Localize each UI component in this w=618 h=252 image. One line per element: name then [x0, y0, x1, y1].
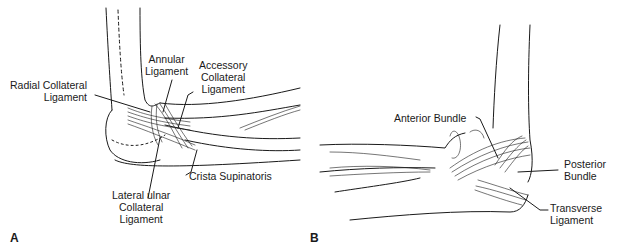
panel-a-lateral-elbow: Radial Collateral Ligament Annular Ligam…	[0, 0, 310, 252]
label-line: Transverse	[550, 202, 602, 214]
label-lateral-ulnar-collateral-ligament: Lateral ulnar Collateral Ligament	[112, 189, 170, 225]
label-line: Annular	[145, 53, 188, 65]
label-line: Posterior	[564, 158, 606, 170]
label-line: Ligament	[10, 91, 87, 103]
label-annular-ligament: Annular Ligament	[145, 53, 188, 77]
label-line: Lateral ulnar	[112, 189, 170, 201]
label-transverse-ligament: Transverse Ligament	[550, 202, 602, 226]
label-anterior-bundle: Anterior Bundle	[394, 112, 466, 124]
label-line: Bundle	[564, 170, 606, 182]
label-line: Accessory	[199, 59, 247, 71]
label-line: Radial Collateral	[10, 79, 87, 91]
label-accessory-collateral-ligament: Accessory Collateral Ligament	[199, 59, 247, 95]
label-line: Ligament	[550, 214, 602, 226]
label-posterior-bundle: Posterior Bundle	[564, 158, 606, 182]
label-line: Anterior Bundle	[394, 112, 466, 124]
panel-letter-a: A	[10, 231, 19, 245]
label-line: Collateral	[199, 71, 247, 83]
label-line: Ligament	[199, 83, 247, 95]
panel-b-medial-elbow: Anterior Bundle Posterior Bundle Transve…	[300, 0, 618, 252]
label-line: Crista Supinatoris	[189, 170, 272, 182]
label-crista-supinatoris: Crista Supinatoris	[189, 170, 272, 182]
label-line: Collateral	[112, 201, 170, 213]
panel-letter-b: B	[310, 231, 319, 245]
label-line: Ligament	[112, 213, 170, 225]
label-radial-collateral-ligament: Radial Collateral Ligament	[10, 79, 87, 103]
label-line: Ligament	[145, 65, 188, 77]
